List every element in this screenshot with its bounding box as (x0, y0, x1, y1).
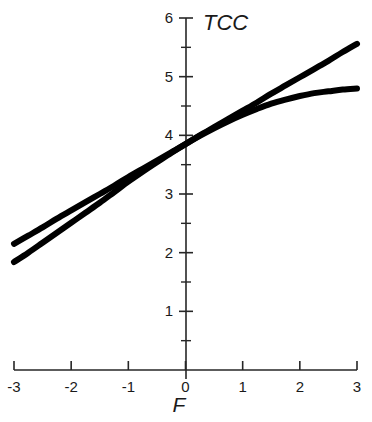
x-tick-label--1: -1 (122, 378, 135, 395)
chart-title: TCC (203, 10, 248, 35)
x-tick-label--2: -2 (64, 378, 77, 395)
x-tick-label-1: 1 (238, 378, 246, 395)
x-tick-label-2: 2 (296, 378, 304, 395)
y-tick-label-2: 2 (165, 244, 173, 261)
y-tick-label-6: 6 (165, 9, 173, 26)
chart-container: -3-2-10123 123456 TCC F (0, 0, 372, 422)
x-axis-title: F (173, 393, 187, 416)
y-tick-label-4: 4 (165, 126, 173, 143)
x-axis-ticks (14, 361, 357, 370)
y-tick-label-5: 5 (165, 68, 173, 85)
x-tick-label--3: -3 (7, 378, 20, 395)
tcc-chart-plot: -3-2-10123 123456 TCC F (0, 0, 372, 422)
y-axis-tick-labels: 123456 (165, 9, 173, 319)
x-tick-label-3: 3 (353, 378, 361, 395)
y-tick-label-1: 1 (165, 302, 173, 319)
y-tick-label-3: 3 (165, 185, 173, 202)
